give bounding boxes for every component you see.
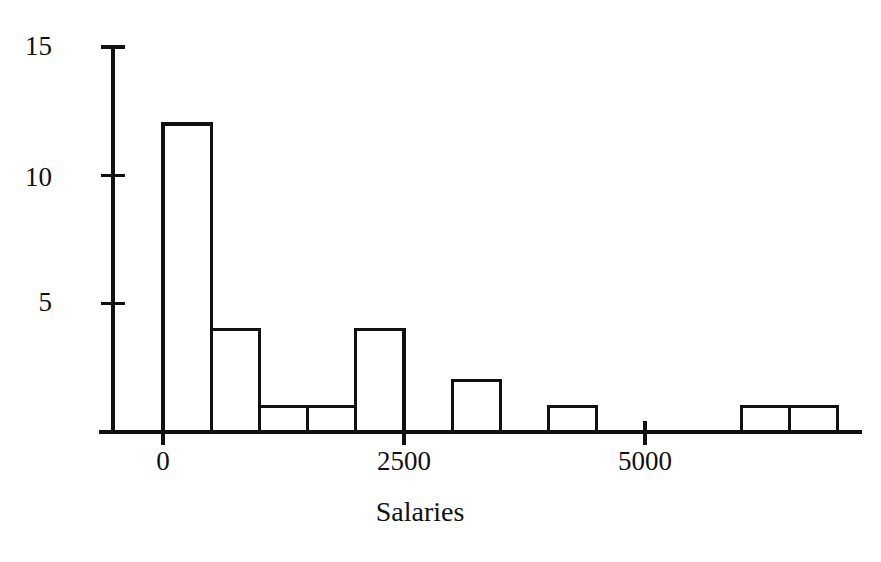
xtick-label-0: 0 — [103, 448, 223, 475]
histogram-bar — [452, 381, 500, 432]
ytick-label-5: 5 — [0, 289, 52, 316]
xtick-label-5000: 5000 — [585, 448, 705, 475]
histogram-bar — [308, 406, 356, 432]
histogram-plot-area — [0, 0, 881, 562]
histogram-bar — [549, 406, 597, 432]
ytick-label-15: 15 — [0, 33, 52, 60]
histogram-bar — [211, 329, 259, 432]
histogram-bar — [259, 406, 307, 432]
histogram-figure: 15 10 5 0 2500 5000 Salaries — [0, 0, 881, 562]
histogram-bar — [741, 406, 789, 432]
x-axis-title: Salaries — [270, 498, 570, 526]
xtick-label-2500: 2500 — [344, 448, 464, 475]
ytick-label-10: 10 — [0, 164, 52, 191]
histogram-bar — [163, 124, 211, 432]
bars-group — [163, 124, 838, 432]
histogram-bar — [356, 329, 404, 432]
histogram-bar — [790, 406, 838, 432]
